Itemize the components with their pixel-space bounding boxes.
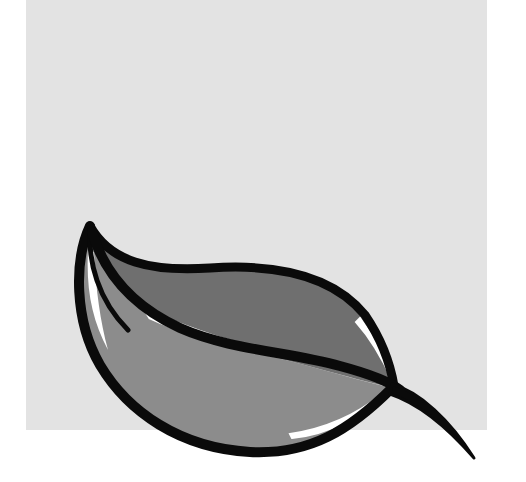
leaf-logo-canvas: Stylized two-tone gray leaf with black o…: [0, 0, 526, 482]
leaf-stem: [390, 384, 474, 458]
leaf-icon: [0, 0, 526, 482]
